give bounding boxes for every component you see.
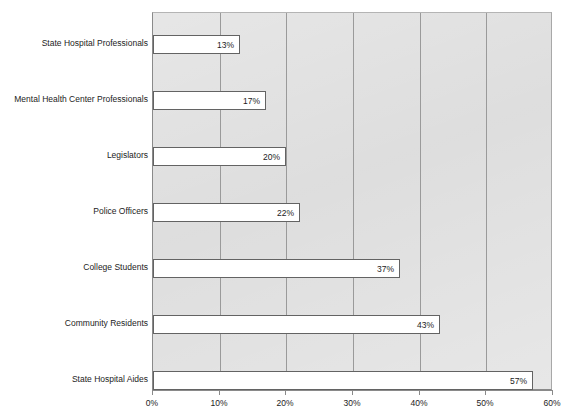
- category-label: College Students: [0, 258, 148, 277]
- bar[interactable]: 43%: [153, 315, 440, 334]
- bar-row: 37%: [153, 259, 553, 278]
- bar-value-label: 57%: [510, 372, 527, 391]
- x-tick-label: 60%: [543, 398, 560, 408]
- bar-value-label: 17%: [243, 92, 260, 111]
- category-label: Mental Health Center Professionals: [0, 90, 148, 109]
- bar[interactable]: 17%: [153, 91, 266, 110]
- bar-row: 57%: [153, 371, 553, 390]
- category-label: Community Residents: [0, 314, 148, 333]
- x-tick-label: 20%: [276, 398, 293, 408]
- category-label: State Hospital Aides: [0, 370, 148, 389]
- x-tick-20%: [285, 390, 286, 395]
- plot-area: 13%17%20%22%37%43%57%: [152, 12, 552, 390]
- bar[interactable]: 57%: [153, 371, 533, 390]
- x-tick-60%: [552, 390, 553, 395]
- x-tick-label: 30%: [343, 398, 360, 408]
- bar-value-label: 22%: [277, 204, 294, 223]
- x-tick-40%: [419, 390, 420, 395]
- bar-chart: 13%17%20%22%37%43%57% State Hospital Pro…: [0, 0, 567, 420]
- category-label: State Hospital Professionals: [0, 34, 148, 53]
- bar-row: 13%: [153, 35, 553, 54]
- bar-row: 43%: [153, 315, 553, 334]
- x-tick-10%: [219, 390, 220, 395]
- bar-row: 17%: [153, 91, 553, 110]
- category-label: Legislators: [0, 146, 148, 165]
- x-tick-30%: [352, 390, 353, 395]
- bar[interactable]: 22%: [153, 203, 300, 222]
- x-tick-label: 40%: [410, 398, 427, 408]
- x-tick-label: 10%: [210, 398, 227, 408]
- bar-row: 22%: [153, 203, 553, 222]
- bar[interactable]: 37%: [153, 259, 400, 278]
- bar-value-label: 20%: [263, 148, 280, 167]
- bar-value-label: 37%: [377, 260, 394, 279]
- bar[interactable]: 13%: [153, 35, 240, 54]
- category-label: Police Officers: [0, 202, 148, 221]
- x-tick-0%: [152, 390, 153, 395]
- bar-row: 20%: [153, 147, 553, 166]
- bar-value-label: 13%: [217, 36, 234, 55]
- bar-value-label: 43%: [417, 316, 434, 335]
- bar[interactable]: 20%: [153, 147, 286, 166]
- x-tick-label: 50%: [476, 398, 493, 408]
- x-tick-label: 0%: [146, 398, 158, 408]
- x-tick-50%: [485, 390, 486, 395]
